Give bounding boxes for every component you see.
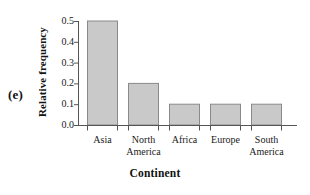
x-axis-title: Continent: [0, 167, 310, 179]
x-tick-label-line2: America: [233, 146, 301, 158]
x-tick-label-line2: America: [110, 146, 178, 158]
bar-chart-figure: (e) Relative frequency 0.00.10.20.30.40.…: [0, 0, 310, 195]
x-tick-label-south-america: SouthAmerica: [233, 134, 301, 157]
x-tick-label-line1: South: [255, 134, 278, 145]
x-axis-tick-labels: AsiaNorthAmericaAfricaEuropeSouthAmerica: [0, 0, 310, 195]
